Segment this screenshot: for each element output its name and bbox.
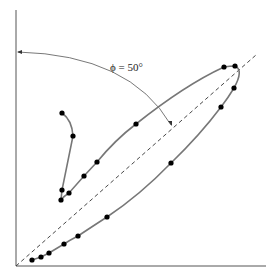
data-point xyxy=(231,85,236,90)
data-point xyxy=(232,63,237,68)
data-point xyxy=(94,159,99,164)
data-point xyxy=(58,197,63,202)
arc-arrowhead-right-icon xyxy=(168,121,172,126)
phase-angle-label: ϕ = 50° xyxy=(110,61,143,73)
data-point xyxy=(59,110,64,115)
data-point xyxy=(218,104,223,109)
data-point xyxy=(75,233,80,238)
data-point xyxy=(133,121,138,126)
data-point xyxy=(104,214,109,219)
arc-arrowhead-left-icon xyxy=(17,50,22,54)
data-point xyxy=(29,257,34,262)
diagram-svg xyxy=(0,0,273,278)
data-point xyxy=(81,173,86,178)
data-point xyxy=(168,160,173,165)
data-point xyxy=(46,250,51,255)
diagram-canvas: ϕ = 50° xyxy=(0,0,273,278)
response-curve xyxy=(32,66,239,260)
data-point xyxy=(66,190,71,195)
data-point xyxy=(70,133,75,138)
data-point xyxy=(221,64,226,69)
data-point xyxy=(61,241,66,246)
data-point xyxy=(59,187,64,192)
data-point xyxy=(38,254,43,259)
diagonal-reference-line xyxy=(16,55,256,266)
